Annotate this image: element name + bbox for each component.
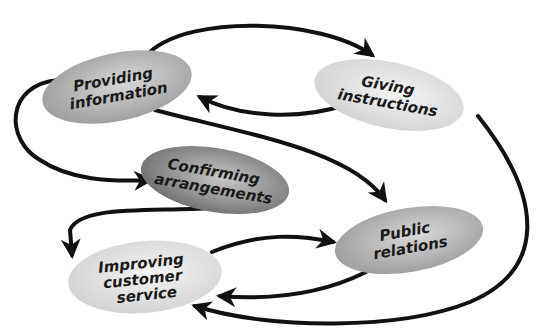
node-giving-instructions: Giving instructions	[308, 47, 470, 143]
node-public-relations: Public relations	[330, 195, 489, 284]
node-providing-information: Providing information	[36, 38, 199, 136]
communication-cycle-diagram: Providing information Giving instruction…	[0, 0, 552, 336]
arrow-public-to-improving	[220, 272, 366, 297]
arrow-improving-to-public	[212, 237, 333, 252]
diagram-canvas: Providing information Giving instruction…	[0, 0, 552, 336]
arrow-providing-to-giving	[150, 26, 372, 55]
